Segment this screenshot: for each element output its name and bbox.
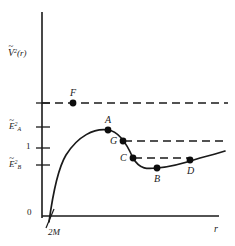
y-tick-label-E2B: ~E2B [9, 159, 21, 170]
point-label-D: D [187, 166, 194, 176]
point-label-A: A [105, 115, 111, 125]
point-D [187, 157, 194, 164]
y-axis-label-symbol: ~V [8, 48, 14, 58]
point-label-G: G [110, 136, 117, 146]
y-tick-label-one: 1 [26, 142, 31, 151]
tilde-accent-EA: ~ [9, 116, 15, 125]
point-G [120, 138, 127, 145]
y-axis-label: ~V2(r) [8, 48, 27, 58]
point-A [105, 127, 112, 134]
figure-effective-potential: ~V2(r) ~E2A 1 ~E2B 0 2M r F A G C B D [0, 0, 235, 246]
y-tick-label-E2A: ~E2A [9, 121, 21, 132]
horizon-label-2M: 2M [48, 228, 60, 237]
potential-curve [49, 130, 225, 222]
point-label-F: F [70, 88, 76, 98]
x-axis-label: r [214, 224, 218, 234]
tilde-accent-EB: ~ [9, 154, 15, 163]
E2B-subscript: B [18, 164, 22, 170]
point-C [130, 155, 137, 162]
y-axis-label-arg: (r) [17, 48, 27, 58]
point-F [70, 100, 77, 107]
E2A-symbol: ~E [9, 122, 15, 131]
tilde-accent-V: ~ [8, 42, 14, 51]
origin-label: 0 [27, 208, 32, 217]
point-B [154, 165, 161, 172]
E2B-symbol: ~E [9, 160, 15, 169]
point-label-B: B [154, 174, 160, 184]
point-label-C: C [120, 153, 127, 163]
E2A-subscript: A [18, 126, 22, 132]
plot-canvas [0, 0, 235, 246]
